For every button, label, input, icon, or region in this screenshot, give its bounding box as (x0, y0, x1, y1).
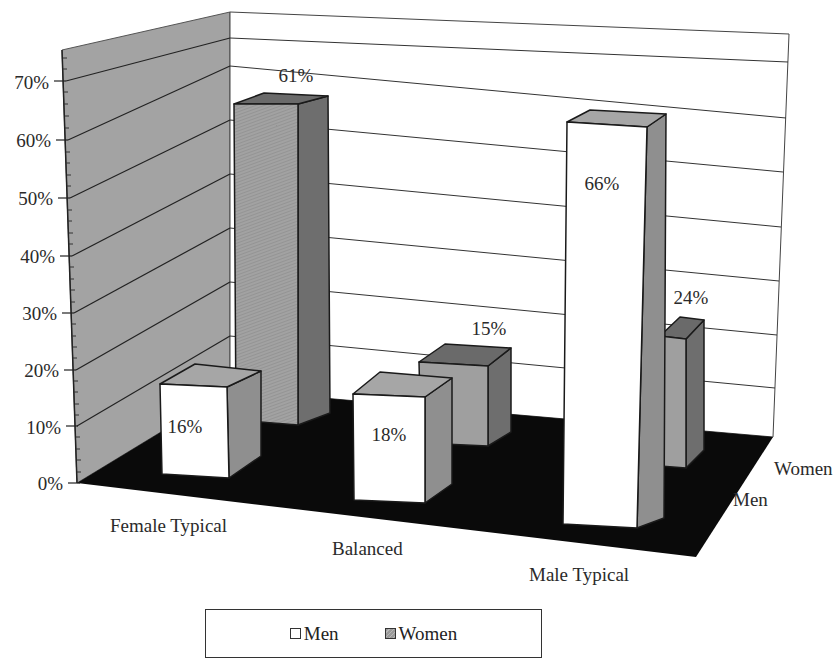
data-label-male-women: 24% (674, 287, 709, 308)
bar-side (686, 320, 704, 468)
legend-item-men: Men (290, 623, 339, 645)
y-tick-label: 50% (18, 188, 53, 209)
legend-label-women: Women (399, 623, 458, 645)
y-tick-label: 40% (20, 246, 55, 267)
data-label-balanced-men: 18% (372, 424, 407, 445)
y-tick-label: 10% (26, 417, 61, 438)
category-label-balanced: Balanced (332, 538, 403, 559)
y-tick-labels: 0% 10% 20% 30% 40% 50% 60% 70% (14, 72, 63, 494)
depth-label-women: Women (774, 458, 833, 479)
legend-item-women: Women (385, 623, 458, 645)
legend-swatch-men-icon (290, 628, 301, 639)
legend-label-men: Men (304, 623, 339, 645)
bar-side (298, 96, 330, 425)
legend: Men Women (205, 609, 542, 658)
depth-label-men: Men (733, 489, 768, 510)
y-tick-label: 70% (14, 72, 49, 93)
data-label-balanced-women: 15% (472, 318, 507, 339)
y-tick-label: 60% (16, 130, 51, 151)
y-tick-label: 30% (22, 303, 57, 324)
data-label-female-men: 16% (168, 416, 203, 437)
data-label-female-women: 61% (279, 65, 314, 86)
bar-side (425, 378, 452, 503)
y-tick-label: 20% (24, 360, 59, 381)
bar-male-typical-women (660, 317, 704, 468)
legend-swatch-women-icon (385, 628, 396, 639)
y-tick-label: 0% (38, 473, 64, 494)
chart-3d-bar: 0% 10% 20% 30% 40% 50% 60% 70% 61% 16% 1… (0, 0, 840, 672)
category-label-male-typical: Male Typical (529, 564, 629, 585)
category-label-female-typical: Female Typical (110, 515, 227, 536)
bar-front (353, 394, 425, 503)
data-label-male-men: 66% (585, 173, 620, 194)
